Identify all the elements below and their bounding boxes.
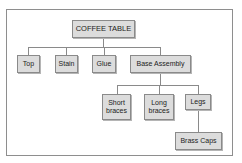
- node-label-line2: braces: [148, 107, 169, 115]
- node-label: Stain: [59, 60, 75, 68]
- node-coffee-table: COFFEE TABLE: [72, 20, 135, 38]
- node-long-braces: Long braces: [144, 94, 174, 120]
- node-stain: Stain: [55, 55, 78, 73]
- node-brass-caps: Brass Caps: [175, 132, 222, 150]
- node-label-line1: Short: [108, 99, 125, 107]
- node-label: Glue: [97, 60, 112, 68]
- node-glue: Glue: [92, 55, 116, 73]
- node-label-line2: braces: [106, 107, 127, 115]
- node-short-braces: Short braces: [102, 94, 131, 120]
- node-label: Base Assembly: [137, 60, 185, 68]
- node-top: Top: [17, 55, 40, 73]
- node-label: Legs: [190, 98, 205, 106]
- node-legs: Legs: [185, 94, 211, 110]
- node-label: Brass Caps: [180, 137, 216, 145]
- node-label: COFFEE TABLE: [76, 25, 132, 33]
- node-base-assembly: Base Assembly: [130, 55, 191, 73]
- node-label: Top: [23, 60, 34, 68]
- node-label-line1: Long: [151, 99, 167, 107]
